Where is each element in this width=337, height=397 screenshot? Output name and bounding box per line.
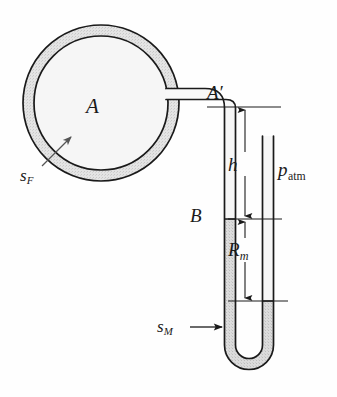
label-point-B: B (190, 206, 202, 225)
tube-inner-outline (166, 100, 263, 359)
label-fluid-sF: sF (20, 167, 33, 184)
label-tap-A-prime: A′ (207, 83, 223, 102)
dimension-annotations (207, 107, 288, 301)
pressure-vessel-A (23, 25, 179, 181)
label-vessel-A: A (86, 96, 99, 117)
label-height-h: h (228, 155, 238, 174)
fluid-right-leg (263, 301, 274, 351)
vessel-inner-wall (34, 36, 168, 170)
label-fluid-sM: sM (157, 318, 173, 335)
manometer-figure (0, 0, 337, 397)
label-reading-Rm: Rm (228, 240, 248, 259)
label-p-atm: patm (278, 160, 305, 179)
